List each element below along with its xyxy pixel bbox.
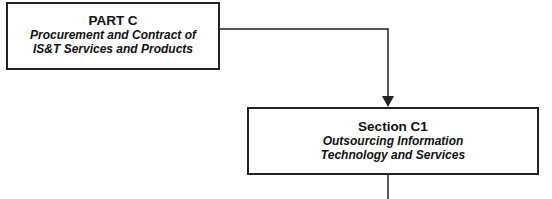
node-title: Section C1 (249, 119, 537, 134)
node-subtitle-line: Procurement and Contract of (8, 28, 218, 42)
node-part-c: PART C Procurement and Contract of IS&T … (6, 2, 220, 70)
arrowhead-icon (382, 96, 394, 107)
node-section-c1: Section C1 Outsourcing Information Techn… (247, 107, 539, 175)
node-subtitle-line: Outsourcing Information (249, 134, 537, 148)
node-subtitle-line: IS&T Services and Products (8, 42, 218, 56)
connector-part-c-to-section-c1 (220, 29, 388, 98)
node-title: PART C (8, 13, 218, 28)
node-subtitle-line: Technology and Services (249, 148, 537, 162)
